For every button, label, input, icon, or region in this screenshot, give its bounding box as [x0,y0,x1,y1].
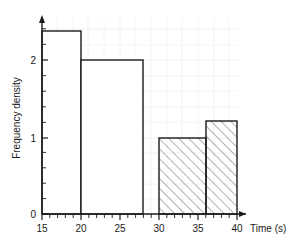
histogram-chart: 15 20 25 30 35 40 0 1 2 Time (s) Frequen… [0,0,291,242]
x-tick-label: 25 [114,223,126,234]
x-tick-label: 30 [153,223,165,234]
y-tick-label: 2 [30,55,36,66]
x-tick-label: 40 [231,223,243,234]
chart-canvas: 15 20 25 30 35 40 0 1 2 Time (s) Frequen… [0,0,291,242]
y-axis-title: Frequency density [11,77,22,159]
y-tick-label: 1 [30,133,36,144]
x-tick-label: 15 [36,223,48,234]
x-tick-label: 20 [75,223,87,234]
histogram-bar [81,60,143,214]
histogram-bar-hatched [206,121,237,214]
histogram-bar-hatched [159,138,206,214]
histogram-bar [42,31,81,214]
x-axis-title: Time (s) [250,223,286,234]
y-tick-label: 0 [30,209,36,220]
x-tick-label: 35 [192,223,204,234]
